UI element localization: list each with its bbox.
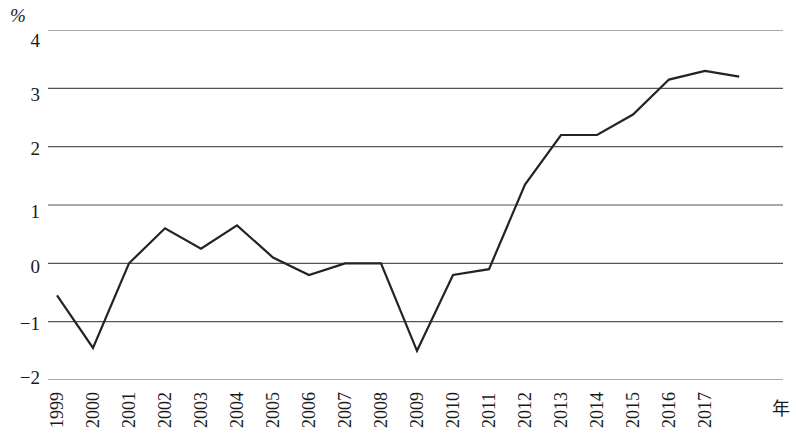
y-tick-label-2: 2 xyxy=(2,139,40,158)
x-tick-label-2004: 2004 xyxy=(228,392,246,428)
x-tick-label-2008: 2008 xyxy=(372,392,390,428)
x-axis-title: 年 xyxy=(772,400,790,418)
x-tick-label-2016: 2016 xyxy=(660,392,678,428)
x-tick-label-2001: 2001 xyxy=(120,392,138,428)
x-tick-label-2002: 2002 xyxy=(156,392,174,428)
x-tick-label-2012: 2012 xyxy=(516,392,534,428)
data-series-line xyxy=(57,71,739,351)
y-tick-label-4: 4 xyxy=(2,31,40,50)
y-tick-label-minus-2: −2 xyxy=(2,368,40,387)
x-tick-label-2017: 2017 xyxy=(696,392,714,428)
x-tick-label-2014: 2014 xyxy=(588,392,606,428)
x-tick-label-2003: 2003 xyxy=(192,392,210,428)
x-tick-label-2015: 2015 xyxy=(624,392,642,428)
y-tick-label-1: 1 xyxy=(2,202,40,221)
x-tick-label-2006: 2006 xyxy=(300,392,318,428)
x-tick-label-2005: 2005 xyxy=(264,392,282,428)
x-tick-label-1999: 1999 xyxy=(48,392,66,428)
line-chart: % 4 3 2 1 0 −1 −2 1999200020012002200320… xyxy=(0,0,796,435)
x-tick-label-2007: 2007 xyxy=(336,392,354,428)
plot-svg xyxy=(48,30,783,380)
plot-area xyxy=(48,30,783,380)
x-tick-label-2013: 2013 xyxy=(552,392,570,428)
y-axis-unit-label: % xyxy=(10,6,26,25)
x-tick-label-2010: 2010 xyxy=(444,392,462,428)
x-tick-label-2009: 2009 xyxy=(408,392,426,428)
x-tick-label-2011: 2011 xyxy=(480,393,498,428)
y-tick-label-3: 3 xyxy=(2,85,40,104)
y-tick-label-0: 0 xyxy=(2,257,40,276)
x-tick-label-2000: 2000 xyxy=(84,392,102,428)
y-tick-label-minus-1: −1 xyxy=(2,314,40,333)
gridlines xyxy=(48,30,783,380)
